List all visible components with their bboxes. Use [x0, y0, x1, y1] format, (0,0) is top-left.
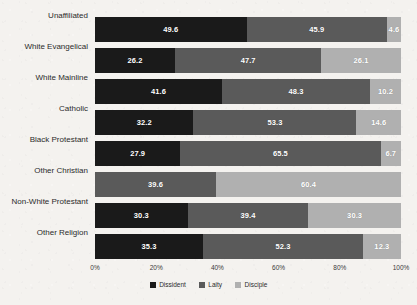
bar-value-label: 27.9 [130, 149, 145, 158]
bar-segment: 39.4 [188, 203, 309, 228]
category-label: Non-White Protestant [0, 197, 88, 207]
bar-segment: 60.4 [216, 172, 401, 197]
bar-value-label: 53.3 [267, 118, 282, 127]
bar-value-label: 48.3 [289, 87, 304, 96]
bar-value-label: 26.1 [354, 56, 369, 65]
bar-segment: 14.6 [356, 110, 401, 135]
bar-segment: 49.6 [95, 17, 247, 42]
x-axis-tick-label: 20% [150, 264, 163, 271]
bar-value-label: 30.3 [347, 211, 362, 220]
bar-segment: 6.7 [381, 141, 401, 166]
bar-segment: 32.2 [95, 110, 193, 135]
plot-area: 49.645.94.626.247.726.141.648.310.232.25… [95, 14, 401, 262]
bar-value-label: 45.9 [309, 25, 324, 34]
category-label: Other Religion [0, 228, 88, 238]
bar-value-label: 4.6 [389, 25, 400, 34]
bar-value-label: 14.6 [371, 118, 386, 127]
bar-segment: 45.9 [247, 17, 387, 42]
legend-item[interactable]: Dissident [150, 281, 186, 288]
x-axis-tick-label: 0% [90, 264, 99, 271]
legend-item[interactable]: Laity [199, 281, 222, 288]
bar-value-label: 47.7 [241, 56, 256, 65]
x-axis-tick-label: 100% [393, 264, 410, 271]
legend-label: Disciple [245, 281, 268, 288]
bar-segment: 26.2 [95, 48, 175, 73]
legend-swatch-icon [235, 282, 241, 288]
bar-segment: 41.6 [95, 79, 222, 104]
bar-value-label: 65.5 [273, 149, 288, 158]
stacked-bar-chart: UnaffiliatedWhite EvangelicalWhite Mainl… [0, 0, 417, 305]
bar-value-label: 30.3 [134, 211, 149, 220]
category-label: White Mainline [0, 73, 88, 83]
bar-segment: 30.3 [95, 203, 188, 228]
x-axis-tick-label: 40% [211, 264, 224, 271]
bar-segment: 65.5 [180, 141, 380, 166]
bar-row: 39.660.4 [95, 172, 401, 197]
bar-row: 35.352.312.3 [95, 234, 401, 259]
bar-row: 49.645.94.6 [95, 17, 401, 42]
category-label: Unaffiliated [0, 11, 88, 21]
bar-value-label: 39.4 [240, 211, 255, 220]
bar-segment: 52.3 [203, 234, 363, 259]
x-axis: 0%20%40%60%80%100% [95, 264, 401, 276]
bar-segment: 30.3 [308, 203, 401, 228]
x-axis-tick-label: 80% [333, 264, 346, 271]
bar-value-label: 52.3 [276, 242, 291, 251]
bar-row: 26.247.726.1 [95, 48, 401, 73]
category-axis: UnaffiliatedWhite EvangelicalWhite Mainl… [0, 0, 88, 248]
bar-segment: 10.2 [370, 79, 401, 104]
bar-value-label: 41.6 [151, 87, 166, 96]
legend-label: Dissident [159, 281, 186, 288]
chart-legend: DissidentLaityDisciple [0, 281, 417, 288]
legend-swatch-icon [150, 282, 156, 288]
x-axis-tick-label: 60% [272, 264, 285, 271]
bar-segment: 39.6 [95, 172, 216, 197]
bar-segment: 35.3 [95, 234, 203, 259]
bar-row: 27.965.56.7 [95, 141, 401, 166]
bar-row: 41.648.310.2 [95, 79, 401, 104]
legend-swatch-icon [199, 282, 205, 288]
bar-segment: 48.3 [222, 79, 370, 104]
bar-segment: 53.3 [193, 110, 356, 135]
bar-value-label: 10.2 [378, 87, 393, 96]
bar-value-label: 32.2 [137, 118, 152, 127]
category-label: Other Christian [0, 166, 88, 176]
category-label: White Evangelical [0, 42, 88, 52]
legend-label: Laity [208, 281, 222, 288]
bar-segment: 27.9 [95, 141, 180, 166]
bar-value-label: 60.4 [301, 180, 316, 189]
bar-segment: 12.3 [363, 234, 401, 259]
bar-value-label: 26.2 [128, 56, 143, 65]
category-label: Black Protestant [0, 135, 88, 145]
bar-segment: 26.1 [321, 48, 401, 73]
bar-segment: 4.6 [387, 17, 401, 42]
bar-value-label: 12.3 [374, 242, 389, 251]
bar-value-label: 6.7 [385, 149, 396, 158]
bar-value-label: 49.6 [163, 25, 178, 34]
legend-item[interactable]: Disciple [235, 281, 267, 288]
bar-value-label: 39.6 [148, 180, 163, 189]
bar-row: 32.253.314.6 [95, 110, 401, 135]
bar-row: 30.339.430.3 [95, 203, 401, 228]
bar-segment: 47.7 [175, 48, 321, 73]
category-label: Catholic [0, 104, 88, 114]
bar-value-label: 35.3 [142, 242, 157, 251]
